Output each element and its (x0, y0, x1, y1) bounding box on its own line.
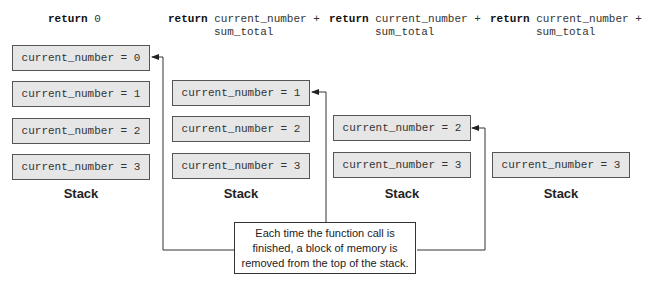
callout-line-3: removed from the top of the stack. (235, 256, 415, 271)
arrow-to-stack-3 (417, 128, 485, 250)
callout-line-2: finished, a block of memory is (235, 241, 415, 256)
arrow-to-stack-1 (152, 57, 234, 250)
explanation-callout: Each time the function call is finished,… (234, 222, 416, 274)
arrow-to-stack-2 (312, 92, 326, 222)
callout-line-1: Each time the function call is (235, 226, 415, 241)
